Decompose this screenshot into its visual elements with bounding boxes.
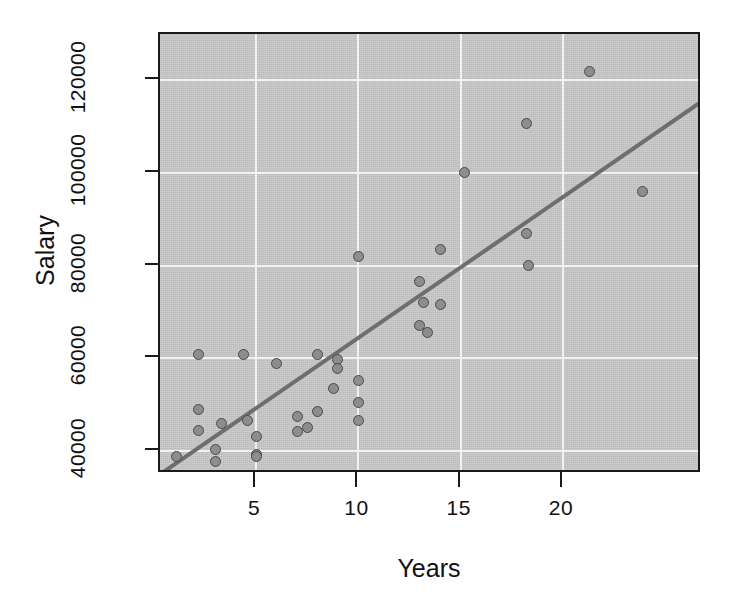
panel-texture — [160, 34, 698, 470]
data-point — [414, 276, 425, 287]
data-point — [422, 327, 433, 338]
x-tick-mark — [458, 472, 460, 487]
data-point — [521, 228, 532, 239]
y-tick-mark — [145, 263, 158, 265]
data-point — [238, 349, 249, 360]
data-point — [332, 363, 343, 374]
data-point — [353, 415, 364, 426]
gridline-vertical — [562, 34, 564, 470]
data-point — [210, 456, 221, 467]
data-point — [459, 167, 470, 178]
y-tick-mark — [145, 170, 158, 172]
gridline-horizontal — [160, 172, 698, 174]
y-tick-mark — [145, 77, 158, 79]
x-tick-label: 15 — [419, 496, 499, 520]
data-point — [312, 349, 323, 360]
x-tick-label: 20 — [521, 496, 601, 520]
x-tick-label: 5 — [214, 496, 294, 520]
data-point — [312, 406, 323, 417]
data-point — [271, 358, 282, 369]
x-tick-mark — [355, 472, 357, 487]
gridline-vertical — [460, 34, 462, 470]
regression-line — [161, 100, 700, 472]
data-point — [193, 404, 204, 415]
x-tick-mark — [253, 472, 255, 487]
x-tick-label: 10 — [316, 496, 396, 520]
scatter-plot-figure: 400006000080000100000120000 5101520 Sala… — [0, 0, 729, 614]
y-tick-mark — [145, 355, 158, 357]
data-point — [418, 297, 429, 308]
x-axis-title: Years — [118, 554, 729, 583]
gridline-horizontal — [160, 79, 698, 81]
data-point — [302, 422, 313, 433]
data-point — [435, 244, 446, 255]
data-point — [328, 383, 339, 394]
data-point — [242, 415, 253, 426]
data-point — [216, 418, 227, 429]
data-point — [193, 425, 204, 436]
data-point — [637, 186, 648, 197]
gridline-horizontal — [160, 265, 698, 267]
y-tick-mark — [145, 448, 158, 450]
gridline-horizontal — [160, 450, 698, 452]
data-point — [292, 411, 303, 422]
data-point — [584, 66, 595, 77]
data-point — [353, 375, 364, 386]
data-point — [292, 426, 303, 437]
y-tick-label: 120000 — [66, 22, 90, 132]
data-point — [210, 444, 221, 455]
data-point — [251, 451, 262, 462]
y-axis-title: Salary — [31, 151, 60, 351]
data-point — [523, 260, 534, 271]
data-point — [251, 431, 262, 442]
data-point — [353, 251, 364, 262]
data-point — [353, 397, 364, 408]
data-point — [435, 299, 446, 310]
data-point — [521, 118, 532, 129]
x-tick-mark — [560, 472, 562, 487]
plot-panel — [158, 32, 700, 472]
data-point — [193, 349, 204, 360]
